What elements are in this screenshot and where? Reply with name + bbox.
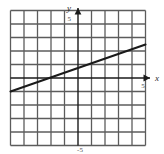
x-axis	[11, 75, 151, 82]
coordinate-plane: y x 5 -5 5	[0, 0, 164, 154]
y-axis	[75, 8, 82, 146]
x-tick-label-5: 5	[141, 82, 145, 90]
x-axis-arrow	[144, 75, 151, 82]
y-axis-arrow	[75, 8, 82, 15]
y-tick-label-5: 5	[68, 15, 72, 23]
y-axis-label: y	[66, 3, 71, 13]
y-tick-label-neg5: -5	[77, 146, 83, 154]
x-axis-label: x	[154, 73, 159, 83]
graph-figure: y x 5 -5 5	[0, 0, 164, 154]
